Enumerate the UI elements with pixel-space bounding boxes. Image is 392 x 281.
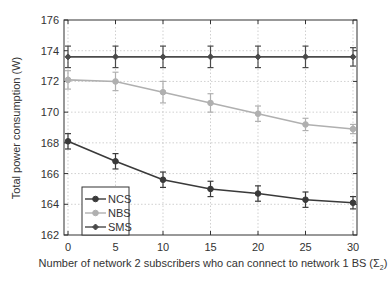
circle-marker [303,122,309,128]
y-tick-label: 170 [41,106,59,118]
circle-marker [208,100,214,106]
x-tick-label: 10 [157,241,169,253]
legend-label: NBS [108,207,131,219]
x-axis-label: Number of network 2 subscribers who can … [39,257,388,271]
legend-label: SMS [108,221,132,233]
circle-marker [65,139,71,145]
circle-marker [93,196,99,202]
line-chart: 162164166168170172174176051015202530 Tot… [0,0,392,281]
data-series [65,46,356,209]
series-sms [65,46,356,67]
y-tick-label: 174 [41,45,59,57]
circle-marker [113,158,119,164]
circle-marker [255,191,261,197]
diamond-marker [160,54,166,60]
x-tick-label: 25 [299,241,311,253]
diamond-marker [113,54,119,60]
circle-marker [93,210,99,216]
y-axis-label: Total power consumption (W) [10,57,22,199]
circle-marker [160,177,166,183]
diamond-marker [350,54,356,60]
circle-marker [350,126,356,132]
circle-marker [255,111,261,117]
y-tick-label: 168 [41,137,59,149]
circle-marker [113,79,119,85]
y-tick-label: 164 [41,198,59,210]
legend: NCSNBSSMS [82,187,132,235]
diamond-marker [255,54,261,60]
legend-label: NCS [108,193,131,205]
diamond-marker [303,54,309,60]
y-tick-label: 162 [41,229,59,241]
diamond-marker [208,54,214,60]
circle-marker [350,200,356,206]
x-tick-label: 20 [252,241,264,253]
x-tick-label: 30 [347,241,359,253]
x-tick-label: 5 [112,241,118,253]
x-tick-label: 0 [65,241,71,253]
y-tick-label: 166 [41,168,59,180]
diamond-marker [65,54,71,60]
circle-marker [65,77,71,83]
y-tick-label: 176 [41,14,59,26]
y-tick-label: 172 [41,75,59,87]
circle-marker [208,186,214,192]
x-tick-label: 15 [204,241,216,253]
circle-marker [160,89,166,95]
circle-marker [303,197,309,203]
